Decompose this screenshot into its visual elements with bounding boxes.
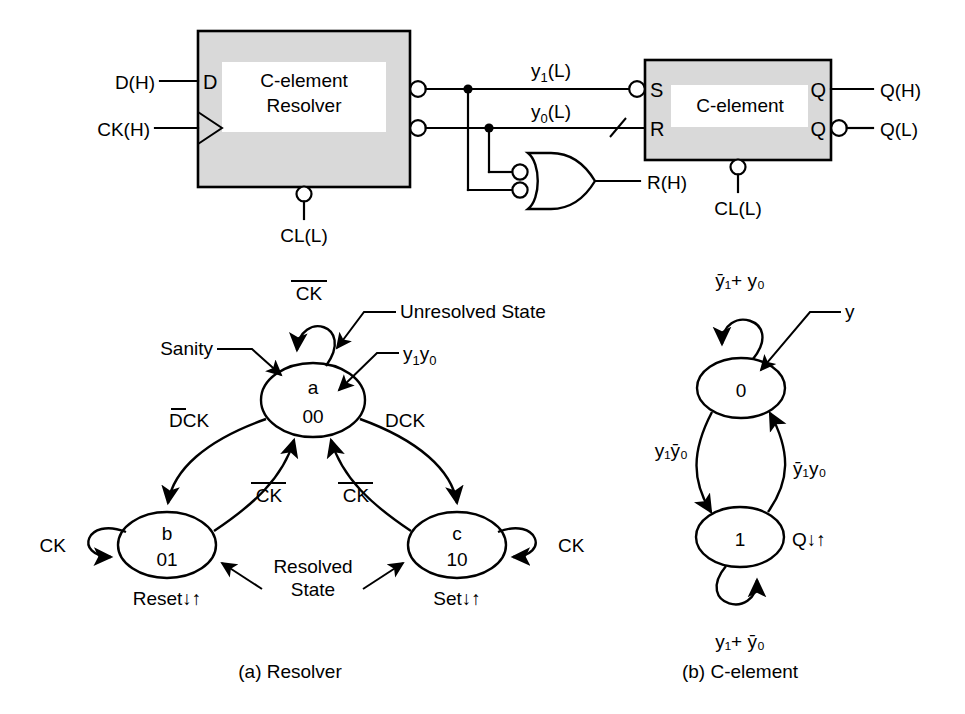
state-node-c: c 10 Set↓↑ [408, 512, 506, 609]
resolved-state-label-line2: State [291, 579, 335, 600]
celement-clear-bubble-icon [731, 160, 746, 175]
resolver-label-line2: Resolver [267, 95, 343, 116]
q-l-output-bubble-icon [831, 120, 847, 136]
celement-s-input-bubble-icon [629, 81, 645, 97]
state-1-name: 1 [735, 529, 746, 550]
resolver-cl-l-label: CL(L) [280, 225, 328, 246]
transition-b-self-loop: CK [40, 528, 126, 557]
state-0-name: 0 [736, 380, 747, 401]
celement-state-diagram: 0 1 Q↓↑ ȳ₁+ y₀ y y₁ȳ₀ ȳ₁y₀ [655, 270, 855, 682]
diagram-svg: C-element Resolver D D(H) CK(H) CL(L) [0, 0, 965, 714]
caption-a: (a) Resolver [238, 661, 342, 682]
b-self-loop-label: CK [40, 535, 67, 556]
input-d-h-label: D(H) [115, 72, 155, 93]
nor-gate-body [528, 153, 595, 209]
a-to-b-label-text: DCK [169, 410, 209, 431]
resolver-label-line1: C-element [260, 70, 348, 91]
y1-wire-label: y1(L) [531, 60, 571, 85]
state-a-code: 00 [302, 406, 323, 427]
s1-self-loop-arc [717, 566, 757, 604]
a-self-loop-label-text: CK [296, 283, 323, 304]
state-node-0: 0 [697, 358, 785, 418]
annotation-unresolved-state: Unresolved State [337, 301, 546, 348]
state-b-code: 01 [156, 549, 177, 570]
output-q-h-label: Q(H) [880, 80, 921, 101]
a-self-loop-arc [297, 326, 335, 366]
c-to-a-label-text: CK [343, 485, 370, 506]
c-to-a-label: CK [338, 483, 373, 506]
state-b-note: Reset↓↑ [133, 588, 202, 609]
annotation-resolved-state: Resolved State [222, 556, 403, 600]
a-to-b-label: DCK [169, 409, 209, 431]
transition-0-to-1: y₁ȳ₀ [655, 412, 712, 512]
s0-to-s1-arc [697, 412, 713, 512]
input-ck-h-label: CK(H) [97, 119, 150, 140]
transition-a-to-b: DCK [168, 409, 266, 503]
celement-block: C-element S R Q Q Q(H) Q(L) CL(L) [629, 60, 921, 219]
figure-root: C-element Resolver D D(H) CK(H) CL(L) [0, 0, 965, 714]
resolver-y1-output-bubble-icon [410, 81, 426, 97]
s1-self-loop-label: y₁+ ȳ₀ [715, 631, 765, 652]
celement-pin-r-label: R [650, 118, 664, 140]
a-self-loop-label: CK [291, 281, 327, 304]
celement-label: C-element [696, 95, 784, 116]
state-c-code: 10 [446, 549, 467, 570]
celement-pin-s-label: S [650, 79, 663, 101]
resolver-block: C-element Resolver D D(H) CK(H) CL(L) [97, 31, 426, 246]
y-pointer-leader-arrow [761, 312, 841, 370]
resolved-state-leader-left [222, 563, 262, 589]
state-node-b: b 01 Reset↓↑ [118, 512, 216, 609]
celement-pin-q-top-label: Q [810, 79, 826, 101]
state-b-name: b [162, 523, 173, 544]
state-a-name: a [308, 377, 319, 398]
transition-c-self-loop: CK [498, 528, 585, 557]
state-c-name: c [452, 523, 462, 544]
output-y1y0-label: y1y0 [403, 343, 436, 368]
transition-1-to-0: ȳ₁y₀ [768, 413, 826, 512]
s0-self-loop-arc [722, 320, 762, 359]
caption-b: (b) C-element [682, 661, 799, 682]
sanity-label: Sanity [160, 338, 213, 359]
unresolved-state-leader-arrow [337, 312, 396, 348]
b-to-a-label-text: CK [256, 485, 283, 506]
s1-to-s0-label: ȳ₁y₀ [793, 458, 826, 479]
a-to-c-arc [360, 419, 457, 503]
output-q-l-label: Q(L) [880, 119, 918, 140]
transition-c-to-a: CK [331, 440, 411, 531]
transition-a-self-loop: CK [291, 281, 335, 366]
transition-b-to-a: CK [214, 440, 294, 531]
state-node-a: a 00 [261, 363, 365, 437]
b-to-a-label: CK [251, 483, 286, 506]
a-to-c-label-text: DCK [385, 410, 425, 431]
s0-self-loop-label: ȳ₁+ y₀ [715, 270, 765, 291]
nor-input-bubble-bottom-icon [512, 182, 527, 197]
resolver-state-diagram: a 00 b 01 Reset↓↑ c 10 Set↓↑ CK Sani [40, 281, 585, 682]
state-c-note: Set↓↑ [433, 588, 481, 609]
celement-cl-l-label: CL(L) [714, 198, 762, 219]
resolver-clear-bubble-icon [297, 187, 312, 202]
resolved-state-leader-right [363, 563, 403, 589]
celement-pin-q-bottom-label: Q [810, 118, 826, 140]
resolved-state-label-line1: Resolved [273, 556, 352, 577]
sanity-leader-arrow [217, 349, 281, 375]
resolver-y0-output-bubble-icon [410, 120, 426, 136]
nor-input-bubble-top-icon [512, 164, 527, 179]
a-to-b-arc [168, 419, 266, 503]
transition-0-self-loop: ȳ₁+ y₀ [715, 270, 765, 359]
state-node-1: 1 Q↓↑ [696, 507, 826, 567]
s0-to-s1-label: y₁ȳ₀ [655, 440, 688, 461]
nor-output-r-h-label: R(H) [647, 172, 687, 193]
annotation-sanity: Sanity [160, 338, 281, 375]
top-circuit-schematic: C-element Resolver D D(H) CK(H) CL(L) [97, 31, 921, 246]
nor-gate: R(H) [512, 153, 687, 209]
resolver-to-celement-wires: y1(L) y0(L) [426, 60, 645, 190]
unresolved-state-label: Unresolved State [400, 301, 546, 322]
s1-to-s0-arc [768, 413, 785, 512]
transition-1-self-loop: y₁+ ȳ₀ [715, 566, 765, 652]
y0-wire-label: y0(L) [531, 101, 571, 126]
y-pointer-label: y [845, 301, 855, 322]
c-self-loop-label: CK [558, 535, 585, 556]
transition-a-to-c: DCK [360, 410, 457, 503]
resolver-pin-d-label: D [203, 71, 217, 93]
state-1-note: Q↓↑ [792, 529, 826, 550]
